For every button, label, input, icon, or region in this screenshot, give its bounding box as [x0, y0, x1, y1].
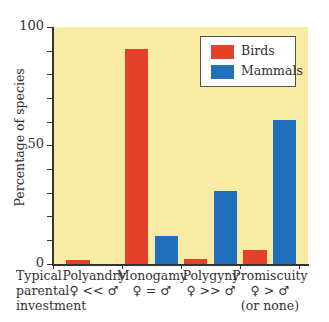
category-promiscuity: Promiscuity ♀ > ♂ (or none)	[230, 268, 310, 313]
legend-label-birds: Birds	[241, 43, 275, 58]
category-label: Promiscuity	[230, 268, 310, 283]
y-axis	[52, 27, 54, 265]
y-axis-title: Percentage of species	[12, 77, 27, 207]
bar-mammals-monogamy	[155, 236, 178, 264]
bar-birds-polygyny	[184, 259, 207, 264]
y-tick-100	[47, 27, 53, 28]
y-label-100: 100	[14, 18, 44, 33]
bar-mammals-polygyny	[214, 191, 237, 264]
category-investment: ♀ > ♂	[230, 283, 310, 298]
y-tick-80	[47, 74, 53, 75]
y-tick-90	[47, 51, 53, 52]
legend-swatch-mammals	[211, 65, 234, 79]
category-note: (or none)	[230, 298, 310, 313]
legend-swatch-birds	[211, 45, 234, 59]
bar-birds-promiscuity	[243, 250, 267, 264]
y-tick-70	[47, 98, 53, 99]
y-tick-40	[47, 169, 53, 170]
legend: Birds Mammals	[200, 36, 296, 87]
bar-mammals-promiscuity	[273, 120, 296, 264]
y-tick-20	[47, 216, 53, 217]
bar-birds-monogamy	[125, 49, 148, 264]
y-tick-50	[47, 145, 53, 146]
y-tick-10	[47, 240, 53, 241]
legend-label-mammals: Mammals	[241, 63, 303, 78]
y-tick-60	[47, 122, 53, 123]
bar-birds-polyandry	[66, 260, 90, 264]
y-tick-30	[47, 193, 53, 194]
row-label-line: investment	[16, 298, 86, 313]
